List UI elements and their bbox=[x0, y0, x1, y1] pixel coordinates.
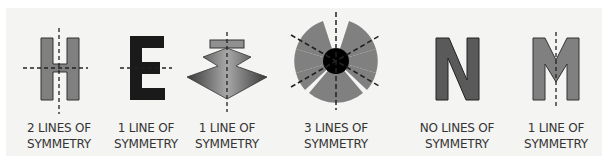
caption-line: 1 LINE OF bbox=[118, 121, 175, 135]
letter-h-shape bbox=[23, 28, 88, 114]
letter-m-shape bbox=[533, 32, 579, 108]
trefoil-shape bbox=[291, 12, 381, 110]
caption-trefoil: 3 LINES OFSYMMETRY bbox=[281, 120, 391, 152]
caption-line: SYMMETRY bbox=[114, 137, 178, 151]
caption-line: 2 LINES OF bbox=[27, 121, 91, 135]
caption-m: 1 LINE OFSYMMETRY bbox=[501, 120, 606, 152]
caption-line: NO LINES OF bbox=[420, 121, 495, 135]
caption-line: SYMMETRY bbox=[524, 137, 588, 151]
caption-n: NO LINES OFSYMMETRY bbox=[402, 120, 512, 152]
caption-line: SYMMETRY bbox=[195, 137, 259, 151]
caption-line: SYMMETRY bbox=[27, 137, 91, 151]
caption-arrow: 1 LINE OFSYMMETRY bbox=[172, 120, 282, 152]
letter-n-shape bbox=[436, 38, 479, 100]
stacked-arrow-shape bbox=[187, 32, 267, 112]
caption-line: 3 LINES OF bbox=[304, 121, 368, 135]
caption-line: SYMMETRY bbox=[304, 137, 368, 151]
letter-e-shape bbox=[120, 36, 172, 100]
caption-line: 1 LINE OF bbox=[199, 121, 256, 135]
caption-line: 1 LINE OF bbox=[528, 121, 585, 135]
caption-line: SYMMETRY bbox=[425, 137, 489, 151]
